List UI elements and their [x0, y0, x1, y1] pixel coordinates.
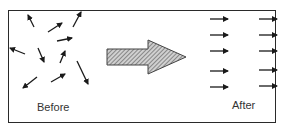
random-arrow-icon: [23, 77, 37, 88]
before-random-arrows: [10, 12, 88, 88]
random-arrow-icon: [73, 12, 81, 27]
random-arrow-icon: [38, 48, 44, 62]
random-arrow-icon: [48, 23, 62, 32]
random-arrow-icon: [57, 38, 72, 41]
random-arrow-icon: [10, 48, 25, 54]
random-arrow-icon: [60, 51, 65, 63]
after-aligned-arrows: [210, 19, 277, 87]
hatched-right-arrow-icon: [107, 40, 186, 74]
before-label: Before: [37, 101, 69, 113]
random-arrow-icon: [28, 15, 34, 27]
random-arrow-icon: [77, 61, 88, 84]
random-arrow-icon: [51, 74, 65, 82]
after-label: After: [232, 99, 255, 111]
